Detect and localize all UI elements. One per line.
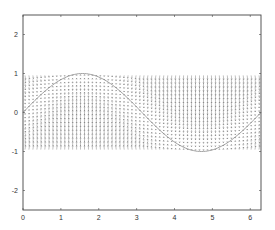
- sine-curve: [23, 74, 261, 152]
- y-tick-label: -1: [12, 148, 18, 155]
- x-tick-label: 6: [248, 214, 252, 221]
- y-tick-label: -2: [12, 187, 18, 194]
- x-tick-label: 2: [97, 214, 101, 221]
- y-tick-label: 1: [14, 70, 18, 77]
- x-tick-label: 5: [210, 214, 214, 221]
- x-tick-label: 4: [173, 214, 177, 221]
- x-tick-label: 3: [135, 214, 139, 221]
- x-axis-ticks: 0123456: [21, 15, 252, 221]
- x-tick-label: 1: [59, 214, 63, 221]
- quiver-plot-figure: 0123456 210-1-2: [0, 0, 275, 230]
- x-tick-label: 0: [21, 214, 25, 221]
- plot-svg: 0123456 210-1-2: [0, 0, 275, 230]
- y-tick-label: 0: [14, 109, 18, 116]
- y-tick-label: 2: [14, 31, 18, 38]
